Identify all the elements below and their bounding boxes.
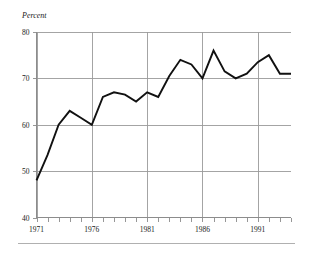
x-tick-label-1976: 1976 xyxy=(84,225,99,234)
line-chart: 4050607080 19711976198119861991 Percent xyxy=(0,0,313,255)
x-tick-label-1986: 1986 xyxy=(195,225,210,234)
y-tick-label-80: 80 xyxy=(22,28,30,37)
x-tick-label-1971: 1971 xyxy=(29,225,44,234)
y-tick-label-50: 50 xyxy=(22,167,30,176)
y-axis-title: Percent xyxy=(21,11,47,20)
x-tick-label-1981: 1981 xyxy=(140,225,155,234)
y-tick-label-60: 60 xyxy=(22,121,30,130)
chart-figure: 4050607080 19711976198119861991 Percent xyxy=(0,0,313,255)
x-tick-label-1991: 1991 xyxy=(250,225,265,234)
chart-background xyxy=(0,0,313,255)
y-tick-label-40: 40 xyxy=(22,214,30,223)
y-tick-label-70: 70 xyxy=(22,74,30,83)
